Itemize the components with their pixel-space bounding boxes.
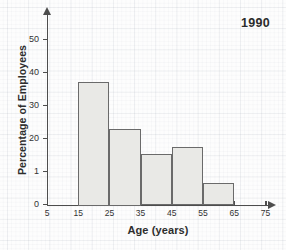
y-axis-title: Percentage of Employees	[16, 25, 28, 195]
y-tick-20	[43, 138, 48, 139]
bar-55-65	[203, 183, 234, 204]
x-axis-title: Age (years)	[47, 224, 269, 236]
y-tick-10	[43, 171, 48, 172]
x-tick-5	[47, 201, 48, 206]
x-tick-label-15: 15	[63, 209, 93, 218]
bar-35-45	[141, 154, 172, 205]
bar-15-25	[78, 82, 109, 206]
x-tick-label-45: 45	[157, 209, 187, 218]
x-tick-label-65: 65	[219, 209, 249, 218]
plot-area: 1990 0 1 20 30 40 50 5 15 25 35 45 55 6	[0, 0, 286, 250]
y-tick-label-0: 0	[0, 200, 39, 209]
x-tick-label-35: 35	[126, 209, 156, 218]
y-tick-30	[43, 105, 48, 106]
y-tick-50	[43, 39, 48, 40]
bar-25-35	[109, 129, 140, 206]
y-axis-arrow-icon	[43, 7, 51, 15]
histogram-figure: 1990 0 1 20 30 40 50 5 15 25 35 45 55 6	[0, 0, 286, 250]
x-tick-65	[234, 201, 235, 206]
year-annotation: 1990	[241, 16, 270, 30]
bar-45-55	[172, 147, 203, 205]
y-axis-line	[47, 14, 48, 206]
x-tick-label-55: 55	[188, 209, 218, 218]
x-tick-label-75: 75	[250, 209, 280, 218]
x-tick-label-25: 25	[94, 209, 124, 218]
x-tick-75	[265, 201, 266, 206]
x-tick-label-5: 5	[32, 209, 62, 218]
y-tick-40	[43, 72, 48, 73]
